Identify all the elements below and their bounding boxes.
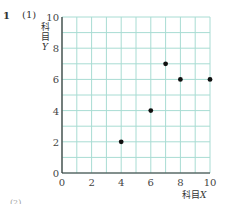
next-problem-number: (2) bbox=[10, 198, 21, 204]
grid-lines bbox=[62, 17, 210, 173]
data-point bbox=[148, 108, 153, 113]
y-tick-label: 8 bbox=[53, 43, 59, 54]
y-tick-label: 10 bbox=[46, 12, 59, 23]
tick-labels: 02468100246810 bbox=[46, 12, 216, 188]
data-point bbox=[163, 61, 168, 66]
data-point bbox=[119, 139, 124, 144]
x-tick-label: 10 bbox=[204, 177, 217, 188]
x-axis-variable: X bbox=[200, 190, 206, 200]
scatter-plot: 02468100246810 bbox=[0, 0, 226, 204]
x-tick-label: 0 bbox=[59, 177, 65, 188]
y-tick-label: 0 bbox=[53, 168, 59, 179]
data-point bbox=[208, 77, 213, 82]
x-tick-label: 4 bbox=[118, 177, 124, 188]
x-axis-label: 科目X bbox=[182, 188, 206, 201]
data-point bbox=[178, 77, 183, 82]
x-tick-label: 2 bbox=[88, 177, 94, 188]
y-tick-label: 4 bbox=[53, 106, 59, 117]
y-tick-label: 6 bbox=[53, 74, 59, 85]
x-tick-label: 6 bbox=[148, 177, 154, 188]
y-tick-label: 2 bbox=[53, 137, 59, 148]
x-tick-label: 8 bbox=[177, 177, 183, 188]
x-axis-label-text: 科目 bbox=[182, 190, 200, 200]
